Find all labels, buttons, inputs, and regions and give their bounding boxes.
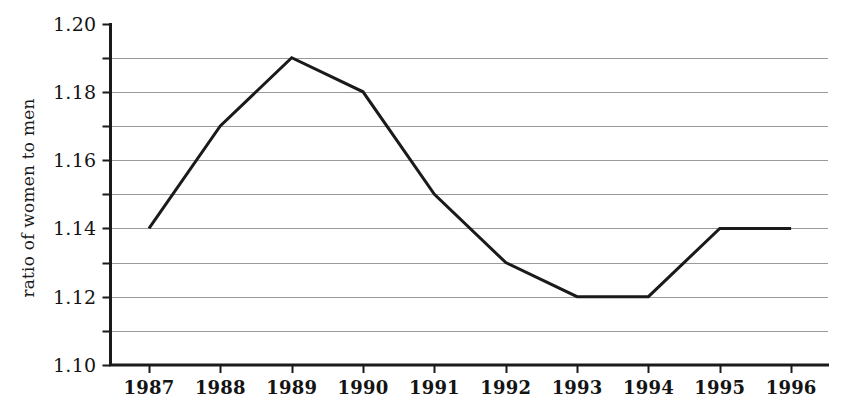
x-tick-label: 1991: [409, 377, 460, 398]
chart-background: [0, 0, 844, 413]
x-tick-label: 1992: [480, 377, 531, 398]
x-tick-label: 1993: [552, 377, 603, 398]
y-tick-label: 1.12: [53, 286, 97, 308]
line-chart: 1.101.121.141.161.181.20 198719881989199…: [0, 0, 844, 413]
x-tick-label: 1987: [124, 377, 175, 398]
chart-figure: 1.101.121.141.161.181.20 198719881989199…: [0, 0, 844, 413]
y-tick-label: 1.18: [53, 81, 97, 103]
y-tick-label: 1.10: [53, 354, 97, 376]
y-tick-label: 1.20: [53, 13, 97, 35]
y-tick-label: 1.14: [53, 217, 97, 239]
x-tick-label: 1994: [623, 377, 674, 398]
x-tick-label: 1996: [766, 377, 817, 398]
y-tick-label: 1.16: [53, 149, 97, 171]
y-axis-title: ratio of women to men: [18, 98, 38, 297]
x-tick-label: 1990: [338, 377, 389, 398]
x-tick-label: 1988: [195, 377, 246, 398]
x-tick-label: 1989: [266, 377, 317, 398]
x-tick-label: 1995: [694, 377, 745, 398]
